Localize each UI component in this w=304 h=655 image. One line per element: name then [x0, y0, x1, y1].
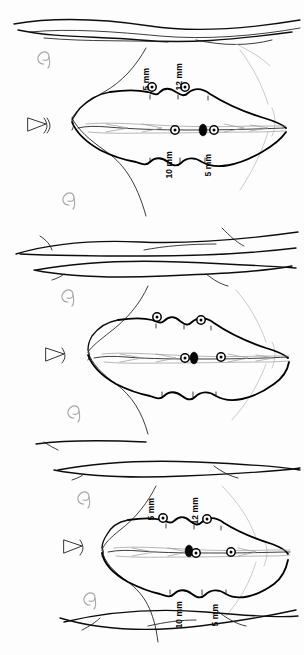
- marker-lower-left[interactable]: [171, 126, 179, 134]
- upper-lip-outline: [72, 89, 286, 128]
- marker-upper-left[interactable]: [159, 514, 167, 522]
- arrowhead-pointer: [64, 540, 83, 555]
- lip-diagram-middle: 5 mm 12 mm 10 mm 5 mm: [0, 222, 304, 440]
- panel-3-artwork: [0, 440, 304, 655]
- marker-lower-right[interactable]: [217, 353, 225, 361]
- lip-diagram-top: 5 mm 12 mm 10 mm 5 mm: [0, 0, 304, 222]
- label-10mm-lower-left: 10 mm: [165, 151, 174, 178]
- lesion-mark: [190, 352, 198, 364]
- glyph-e-upper: [62, 290, 74, 306]
- panel-2-artwork: [0, 222, 304, 440]
- label-5mm-lower-right: 5 mm: [204, 154, 213, 177]
- marker-upper-right[interactable]: [197, 316, 205, 324]
- marker-lower-left[interactable]: [192, 549, 200, 557]
- glyph-e-lower: [63, 193, 75, 209]
- arrowhead-pointer: [46, 348, 65, 363]
- separator-contour-lines: [36, 441, 300, 480]
- diagram-sheet: 5 mm 12 mm 10 mm 5 mm: [0, 0, 304, 655]
- cheek-contours: [102, 486, 267, 642]
- marker-lower-left[interactable]: [181, 354, 189, 362]
- marker-lower-right[interactable]: [210, 126, 218, 134]
- bottom-contour-lines: [60, 610, 298, 630]
- marker-upper-left[interactable]: [153, 313, 161, 321]
- lip-diagram-bottom: 5 mm 12 mm 10 mm 5 mm: [0, 440, 304, 655]
- lower-lip-outline: [102, 553, 288, 598]
- arrowhead-pointer: [28, 118, 50, 133]
- label-12mm-upper-right: 12 mm: [175, 63, 184, 90]
- separator-contour-lines: [16, 228, 298, 286]
- lesion-mark: [199, 124, 207, 136]
- glyph-e-lower: [68, 406, 80, 422]
- glyph-e-upper: [78, 492, 90, 508]
- marker-upper-right[interactable]: [203, 515, 211, 523]
- glyph-e-upper: [38, 52, 50, 68]
- label-5mm-upper-left: 5 mm: [142, 68, 151, 91]
- marker-lower-right[interactable]: [227, 548, 235, 556]
- upper-contour-lines: [14, 20, 300, 66]
- glyph-e-lower: [84, 593, 96, 609]
- panel-1-artwork: [0, 0, 304, 222]
